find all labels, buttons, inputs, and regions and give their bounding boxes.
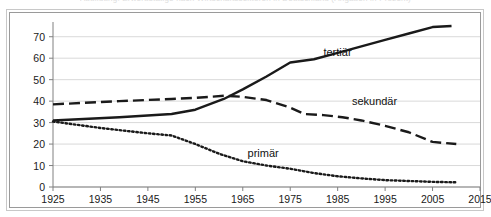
y-tick-label-60: 60 [33, 52, 45, 64]
y-tick-label-20: 20 [33, 138, 45, 150]
series-label-primär: primär [248, 147, 280, 159]
x-tick-label-2015: 2015 [468, 193, 491, 205]
x-tick-label-1935: 1935 [89, 193, 113, 205]
x-tick-label-1955: 1955 [184, 193, 208, 205]
x-tick-label-1985: 1985 [326, 193, 350, 205]
y-tick-label-10: 10 [33, 160, 45, 172]
series-label-tertiär: tertiär [323, 46, 351, 58]
x-tick-label-1925: 1925 [41, 193, 65, 205]
y-tick-label-40: 40 [33, 95, 45, 107]
y-tick-label-50: 50 [33, 74, 45, 86]
plot-area: 010203040506070 192519351945195519651975… [0, 0, 491, 217]
chart-figure: Abbildung: Erwerbstätige nach Wirtschaft… [0, 0, 491, 217]
y-tick-label-30: 30 [33, 117, 45, 129]
y-tick-label-0: 0 [39, 181, 45, 193]
x-tick-label-2005: 2005 [421, 193, 445, 205]
x-axis-tick-labels: 1925193519451955196519751985199520052015 [41, 193, 491, 205]
y-axis-tick-labels: 010203040506070 [33, 31, 45, 193]
y-tick-label-70: 70 [33, 31, 45, 43]
series-inline-labels: tertiärsekundärprimär [248, 46, 398, 159]
x-tick-label-1945: 1945 [136, 193, 160, 205]
x-tick-label-1965: 1965 [231, 193, 255, 205]
series-label-sekundär: sekundär [352, 95, 398, 107]
line-chart-svg: 010203040506070 192519351945195519651975… [0, 0, 491, 217]
x-tick-label-1975: 1975 [279, 193, 303, 205]
x-tick-label-1995: 1995 [373, 193, 397, 205]
